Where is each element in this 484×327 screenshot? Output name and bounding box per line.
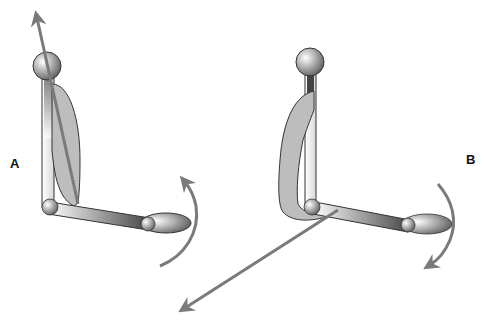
shoulder-joint-b: [296, 48, 324, 76]
panel-a: A: [10, 18, 197, 266]
elbow-joint-a: [42, 199, 58, 215]
wrist-joint-a: [141, 217, 155, 231]
panel-label-a: A: [10, 156, 20, 171]
elbow-joint-b: [304, 199, 320, 215]
panel-label-b: B: [466, 152, 475, 167]
wrist-joint-b: [401, 218, 415, 232]
panel-b: B: [185, 48, 475, 308]
forearm-a: [48, 202, 150, 230]
line-of-action-arrow-b: [185, 210, 338, 308]
diagram-canvas: A B: [0, 0, 484, 327]
